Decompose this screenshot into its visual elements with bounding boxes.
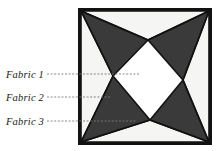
label-fabric-3: Fabric 3 bbox=[5, 116, 44, 127]
quilt-block-figure: Fabric 1 Fabric 2 Fabric 3 bbox=[0, 0, 219, 151]
label-fabric-1: Fabric 1 bbox=[5, 69, 44, 80]
quilt-diagram-svg: Fabric 1 Fabric 2 Fabric 3 bbox=[0, 0, 219, 151]
label-fabric-2: Fabric 2 bbox=[5, 92, 45, 103]
